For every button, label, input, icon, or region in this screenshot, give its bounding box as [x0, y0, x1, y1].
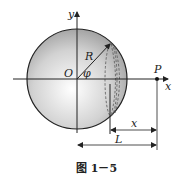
dimension-l-label: L: [114, 133, 122, 146]
dimension-x-label: x: [131, 117, 138, 130]
point-p: [155, 77, 159, 81]
point-p-label: P: [153, 63, 162, 76]
angle-label: φ: [83, 67, 91, 80]
figure-caption: 图 1－5: [76, 162, 117, 175]
y-axis-label: y: [67, 8, 75, 21]
origin-label: O: [64, 67, 73, 80]
radius-label: R: [84, 50, 93, 63]
sphere-diagram: y x O R φ P x L 图 1－5: [0, 0, 183, 181]
x-axis-label: x: [165, 80, 172, 93]
